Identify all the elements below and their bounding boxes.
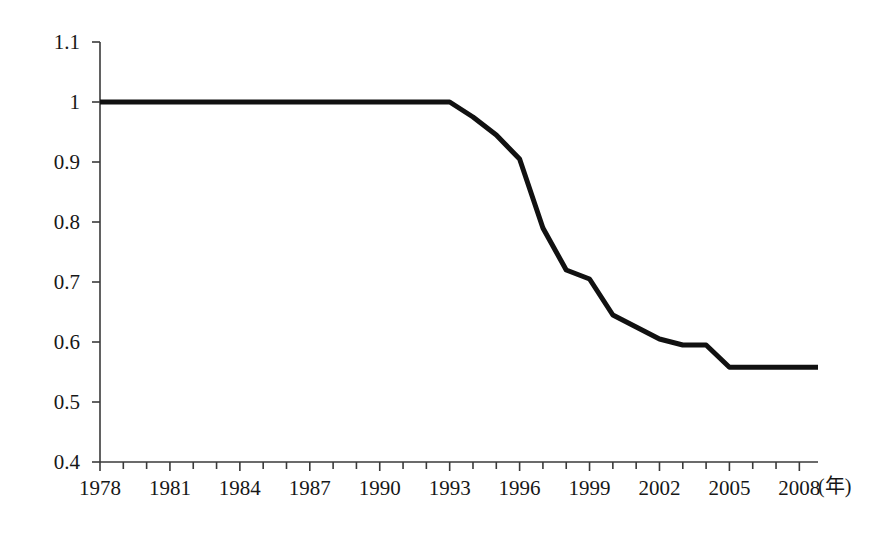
y-axis-tick-label: 0.8 bbox=[0, 212, 80, 233]
x-axis-tick-label: 2002 bbox=[638, 478, 680, 499]
data-series-group bbox=[100, 102, 818, 367]
x-axis-tick-label: 1993 bbox=[429, 478, 471, 499]
y-axis-tick-label: 0.9 bbox=[0, 152, 80, 173]
y-axis-tick-label: 0.7 bbox=[0, 272, 80, 293]
y-axis-tick-label: 0.6 bbox=[0, 332, 80, 353]
line-chart: 1.110.90.80.70.60.50.4 19781981198419871… bbox=[0, 0, 896, 535]
y-axis-tick-label: 0.4 bbox=[0, 452, 80, 473]
x-axis-ticks bbox=[100, 462, 799, 471]
data-line bbox=[100, 102, 818, 367]
y-axis-tick-label: 1 bbox=[0, 92, 80, 113]
y-axis-tick-label: 1.1 bbox=[0, 32, 80, 53]
x-axis-tick-label: 1996 bbox=[499, 478, 541, 499]
x-axis-tick-label: 1999 bbox=[569, 478, 611, 499]
y-axis-ticks bbox=[92, 42, 100, 462]
x-axis-tick-label: 1990 bbox=[359, 478, 401, 499]
axis-lines bbox=[100, 42, 818, 462]
plot-area bbox=[0, 0, 896, 535]
x-axis-tick-label: 1984 bbox=[219, 478, 261, 499]
x-axis-tick-label: 2005 bbox=[708, 478, 750, 499]
x-axis-unit-label: (年) bbox=[818, 476, 851, 496]
x-axis-tick-label: 1987 bbox=[289, 478, 331, 499]
x-axis-tick-label: 2008 bbox=[778, 478, 820, 499]
x-axis-tick-label: 1978 bbox=[79, 478, 121, 499]
x-axis-tick-label: 1981 bbox=[149, 478, 191, 499]
y-axis-tick-label: 0.5 bbox=[0, 392, 80, 413]
